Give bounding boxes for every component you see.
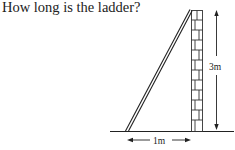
brick-wall xyxy=(192,11,203,132)
ladder-diagram: 3m 1m xyxy=(0,0,235,150)
height-label: 3m xyxy=(209,62,222,72)
ladder xyxy=(126,10,193,132)
base-label: 1m xyxy=(153,136,166,146)
